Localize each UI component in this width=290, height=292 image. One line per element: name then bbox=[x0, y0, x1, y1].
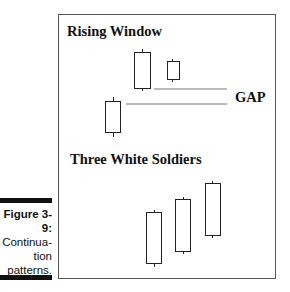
figure-frame bbox=[58, 14, 276, 279]
soldier-candle-2 bbox=[175, 199, 191, 252]
figure-number: Figure 3-9: bbox=[0, 207, 52, 235]
caption-line: tion bbox=[0, 249, 52, 263]
candle-1 bbox=[105, 101, 121, 133]
candle-2 bbox=[134, 52, 151, 89]
caption-line: Continua- bbox=[0, 235, 52, 249]
gap-label: GAP bbox=[235, 89, 266, 106]
pattern-title-three-white-soldiers: Three White Soldiers bbox=[70, 151, 202, 168]
caption-rule-top bbox=[0, 198, 52, 203]
caption-rule-bottom bbox=[0, 275, 52, 280]
candle-3 bbox=[167, 61, 180, 80]
figure-caption: Figure 3-9: Continua- tion patterns. bbox=[0, 207, 52, 277]
gap-line-upper bbox=[154, 88, 227, 90]
gap-line-lower bbox=[126, 103, 227, 105]
pattern-title-rising-window: Rising Window bbox=[67, 23, 162, 40]
soldier-candle-1 bbox=[146, 212, 162, 264]
soldier-candle-3 bbox=[205, 183, 221, 236]
